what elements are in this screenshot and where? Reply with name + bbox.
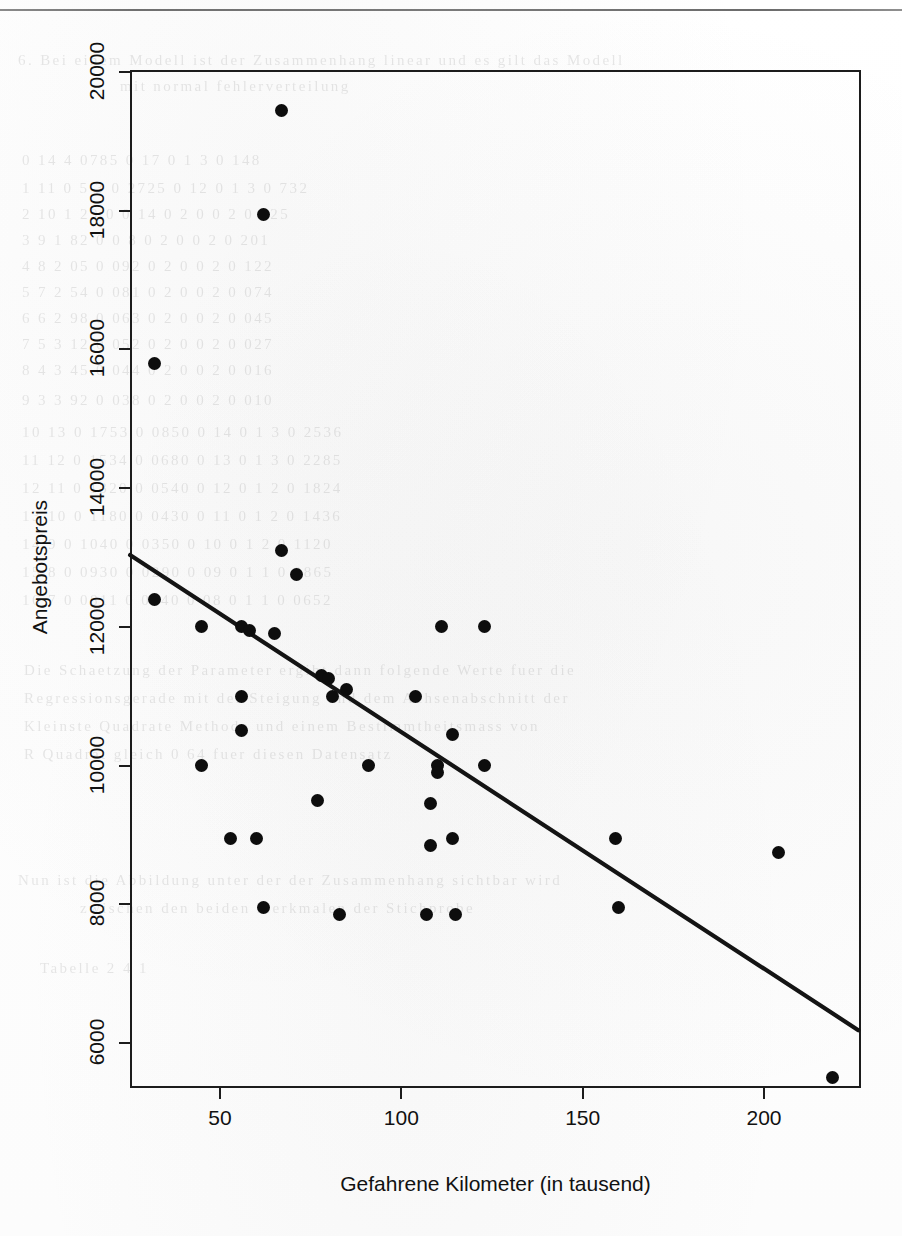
data-point: [446, 832, 459, 845]
y-tick-label: 8000: [85, 858, 109, 948]
data-point: [290, 568, 303, 581]
y-tick-mark: [119, 210, 130, 212]
y-tick-label: 14000: [85, 442, 109, 532]
x-tick-mark: [400, 1088, 402, 1099]
data-point: [772, 846, 785, 859]
x-tick-label: 50: [180, 1106, 260, 1130]
data-point: [424, 839, 437, 852]
x-tick-mark: [582, 1088, 584, 1099]
data-point: [326, 690, 339, 703]
data-point: [609, 832, 622, 845]
data-point: [446, 728, 459, 741]
data-point: [409, 690, 422, 703]
data-point: [235, 690, 248, 703]
data-point: [275, 104, 288, 117]
data-point: [257, 208, 270, 221]
y-tick-mark: [119, 487, 130, 489]
x-tick-mark: [763, 1088, 765, 1099]
y-tick-mark: [119, 348, 130, 350]
x-tick-label: 200: [724, 1106, 804, 1130]
data-point: [250, 832, 263, 845]
y-tick-label: 20000: [85, 26, 109, 116]
y-tick-label: 10000: [85, 720, 109, 810]
y-tick-label: 18000: [85, 165, 109, 255]
x-tick-label: 150: [543, 1106, 623, 1130]
y-tick-mark: [119, 626, 130, 628]
data-point: [435, 620, 448, 633]
y-tick-label: 6000: [85, 997, 109, 1087]
y-tick-label: 16000: [85, 303, 109, 393]
y-tick-mark: [119, 903, 130, 905]
data-point: [148, 593, 161, 606]
y-tick-mark: [119, 1042, 130, 1044]
scatter-plot-figure: 60008000100001200014000160001800020000 5…: [0, 0, 902, 1236]
y-tick-mark: [119, 71, 130, 73]
plot-frame: [130, 70, 861, 1088]
y-axis-title: Angebotspreis: [28, 457, 52, 677]
data-point: [243, 624, 256, 637]
data-point: [431, 766, 444, 779]
data-point: [424, 797, 437, 810]
x-tick-mark: [219, 1088, 221, 1099]
x-tick-label: 100: [361, 1106, 441, 1130]
y-tick-label: 12000: [85, 581, 109, 671]
y-tick-mark: [119, 765, 130, 767]
data-point: [148, 357, 161, 370]
x-axis-title: Gefahrene Kilometer (in tausend): [130, 1172, 861, 1196]
